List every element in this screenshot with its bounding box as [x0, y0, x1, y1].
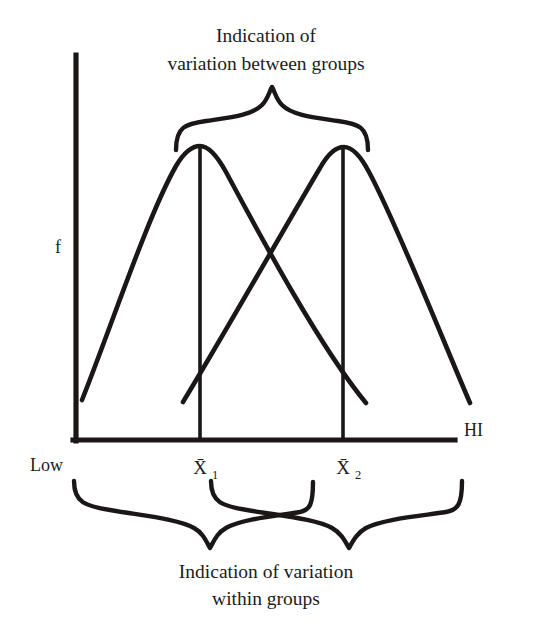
mean-2-tick-label: X̄ — [336, 457, 350, 478]
mean-1-tick-label-group: X̄ 1 — [193, 457, 218, 482]
bottom-caption-line-1: Indication of variation — [179, 561, 354, 582]
within-groups-brace-right — [211, 481, 462, 548]
mean-1-tick-subscript: 1 — [212, 468, 218, 482]
bottom-caption-line-2: within groups — [212, 588, 320, 609]
mean-2-tick-label-group: X̄ 2 — [336, 457, 361, 482]
variation-between-and-within-groups-diagram: Indication of variation between groups f… — [0, 0, 533, 635]
x-axis-label-right: HI — [464, 420, 483, 440]
between-groups-brace — [176, 87, 368, 150]
mean-2-tick-subscript: 2 — [355, 468, 361, 482]
top-caption-line-1: Indication of — [216, 25, 317, 46]
group-1-distribution-curve — [82, 146, 366, 403]
mean-1-tick-label: X̄ — [193, 457, 207, 478]
group-2-distribution-curve — [183, 147, 470, 403]
x-axis-label-low: Low — [30, 455, 63, 475]
top-caption-line-2: variation between groups — [167, 53, 364, 74]
y-axis-label: f — [55, 237, 61, 257]
